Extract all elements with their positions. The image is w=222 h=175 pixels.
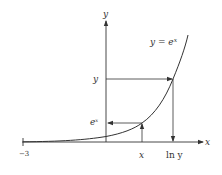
tick-label-neg3: −3: [19, 150, 29, 158]
x-axis-label: x: [205, 137, 210, 147]
ln-y-label: ln y: [166, 150, 184, 160]
curve-label: y = ex: [149, 36, 178, 47]
ex-label: ex: [90, 117, 98, 127]
y-point-label: y: [92, 74, 99, 84]
x-point-label: x: [139, 150, 144, 160]
faint-caption: [20, 162, 90, 168]
x-axis: [22, 138, 203, 146]
exp-log-diagram: x −3 y y = ex y ln y x ex: [0, 0, 222, 175]
exponential-curve: [23, 35, 188, 142]
y-axis-label: y: [102, 9, 109, 19]
